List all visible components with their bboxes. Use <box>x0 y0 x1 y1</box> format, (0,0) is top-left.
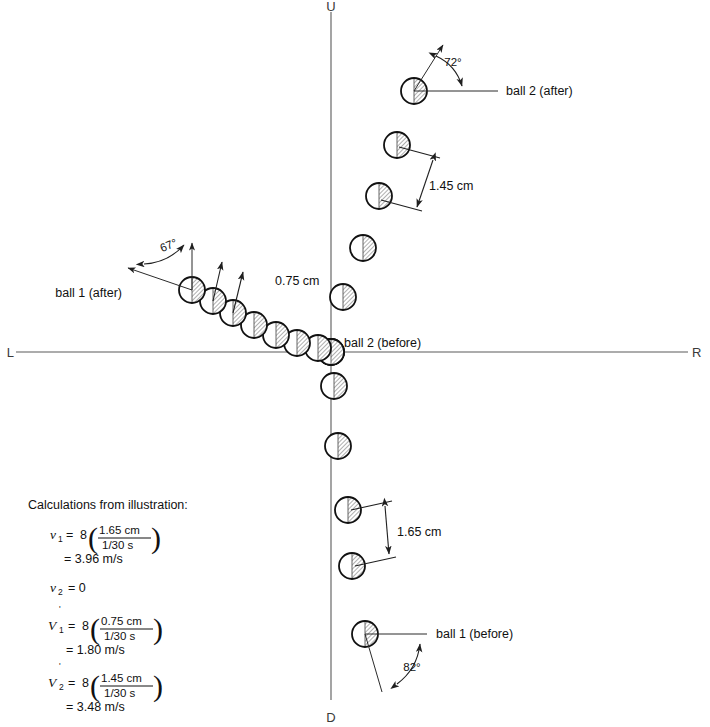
ball2-before-annotation: ball 2 (before) <box>344 336 421 350</box>
ball-shaded-half <box>397 132 410 158</box>
ball-ball1_before-3 <box>335 497 361 523</box>
collision-strobe-diagram: U D L R 72° ball 2 (after) 1.45 cm 67° b… <box>0 0 710 727</box>
ball-positions-layer <box>179 78 427 647</box>
axis-label-down: D <box>326 710 335 725</box>
ball-ball1_before-4 <box>339 553 365 579</box>
ball1-after-label: ball 1 (after) <box>55 286 122 300</box>
calc-row-3: V ' 2 = 8 ( 1.45 cm 1/30 s ) = 3.48 m/s <box>48 661 163 714</box>
calc-row-2-prime: ' <box>59 604 61 614</box>
calc-row-3-denominator: 1/30 s <box>104 687 136 699</box>
ball1-after-angle-label: 67° <box>158 236 179 254</box>
ball-ball2_after-3 <box>366 183 392 209</box>
calc-row-1-var: v <box>50 580 56 595</box>
calc-row-2-numerator: 0.75 cm <box>101 615 142 627</box>
ball2-after-annotation: 72° ball 2 (after) <box>414 45 573 98</box>
calc-row-3-paren-close: ) <box>153 669 163 703</box>
ball-shaded-half <box>343 284 356 310</box>
ball1-after-spacing-label: 0.75 cm <box>275 274 319 288</box>
calc-row-2-coef: 8 <box>82 619 89 633</box>
ball-shaded-half <box>338 433 351 459</box>
dim-measure-line-165 <box>385 506 389 554</box>
ball-light-half <box>321 373 334 399</box>
ball-ball2_after-2 <box>350 235 376 261</box>
calc-row-0-var: v <box>50 527 56 542</box>
calc-row-3-numerator: 1.45 cm <box>101 672 142 684</box>
calc-row-0-result: = 3.96 m/s <box>64 552 123 566</box>
ball-light-half <box>335 497 348 523</box>
calculations-block: Calculations from illustration: v 1 = 8 … <box>28 498 188 714</box>
calc-row-1-sub: 2 <box>58 587 63 597</box>
ball2-after-angle-label: 72° <box>444 56 461 68</box>
ball-light-half <box>384 132 397 158</box>
axis-label-right: R <box>692 345 701 360</box>
ball-shaded-half <box>352 553 365 579</box>
ball2-before-label: ball 2 (before) <box>344 336 421 350</box>
calc-row-3-paren-open: ( <box>90 669 100 703</box>
calc-row-3-equals: = <box>68 676 75 690</box>
ball-shaded-half <box>334 373 347 399</box>
ball-light-half <box>330 284 343 310</box>
ball1-before-annotation: 82° ball 1 (before) <box>365 627 513 692</box>
calc-row-2-var: V <box>48 618 58 633</box>
ball-light-half <box>401 78 414 104</box>
calc-row-2-result: = 1.80 m/s <box>66 643 125 657</box>
ball1-after-direction-ray <box>128 268 192 290</box>
ball-shaded-half <box>363 235 376 261</box>
calc-row-1: v 2 = 0 <box>50 580 86 597</box>
calc-row-0-equals: = <box>66 528 73 542</box>
ball-light-half <box>339 553 352 579</box>
ball-ball2_after-1 <box>330 284 356 310</box>
ball-light-half <box>179 277 192 303</box>
calc-row-0-denominator: 1/30 s <box>102 539 134 551</box>
calc-row-2-paren-close: ) <box>153 612 163 646</box>
ball1-after-annotation: 67° ball 1 (after) <box>55 236 192 300</box>
ball2-after-spacing-label: 1.45 cm <box>429 179 473 193</box>
axis-label-up: U <box>326 0 335 14</box>
axis-label-left: L <box>7 345 14 360</box>
ball-light-half <box>352 621 365 647</box>
calc-row-3-prime: ' <box>59 661 61 671</box>
calc-row-0-paren-close: ) <box>151 521 161 555</box>
calc-row-2-sub: 1 <box>59 625 64 635</box>
ball-light-half <box>325 433 338 459</box>
calc-row-0-coef: 8 <box>80 528 87 542</box>
ball1-before-label: ball 1 (before) <box>436 627 513 641</box>
ball2-after-label: ball 2 (after) <box>506 84 573 98</box>
calc-row-0-sub: 1 <box>58 534 63 544</box>
calc-row-2: V ' 1 = 8 ( 0.75 cm 1/30 s ) = 1.80 m/s <box>48 604 163 657</box>
ball-shaded-half <box>379 183 392 209</box>
calc-row-3-sub: 2 <box>59 682 64 692</box>
ball-shaded-half <box>348 497 361 523</box>
calc-row-0-numerator: 1.65 cm <box>99 524 140 536</box>
ball1-before-spacing-label: 1.65 cm <box>397 525 441 539</box>
calc-row-0: v 1 = 8 ( 1.65 cm 1/30 s ) = 3.96 m/s <box>50 521 161 566</box>
calc-row-2-paren-open: ( <box>90 612 100 646</box>
calc-row-3-var: V <box>48 675 58 690</box>
calculations-heading: Calculations from illustration: <box>28 498 188 512</box>
calc-row-2-equals: = <box>68 619 75 633</box>
ball1-before-spacing-annotation: 1.65 cm <box>351 501 441 566</box>
ball-light-half <box>366 183 379 209</box>
calc-row-3-result: = 3.48 m/s <box>66 700 125 714</box>
ball-ball2_after-4 <box>384 132 410 158</box>
ball-ball1_before-1 <box>321 373 347 399</box>
ball-light-half <box>350 235 363 261</box>
ball1-before-angle-label: 82° <box>403 661 420 673</box>
calc-row-2-denominator: 1/30 s <box>104 630 136 642</box>
ball-ball1_before-2 <box>325 433 351 459</box>
ball2-after-direction-ray <box>414 45 443 91</box>
ball-shaded-half <box>331 339 344 365</box>
calc-row-3-coef: 8 <box>82 676 89 690</box>
calc-row-1-result: = 0 <box>68 581 86 595</box>
calc-row-0-paren-open: ( <box>88 521 98 555</box>
